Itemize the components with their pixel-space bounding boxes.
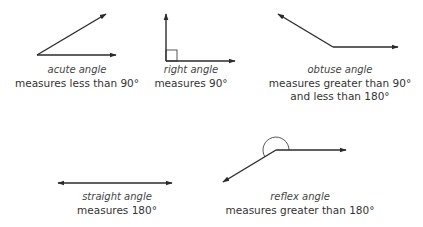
angle-description: measures greater than 90°	[269, 77, 411, 91]
angle-description: measures less than 90°	[15, 77, 139, 91]
straight-angle-label: straight angle measures 180°	[77, 190, 157, 217]
obtuse-angle-figure	[278, 14, 398, 47]
acute-angle-label: acute angle measures less than 90°	[15, 63, 139, 90]
right-angle-marker	[166, 50, 177, 61]
angle-name: right angle	[154, 63, 227, 77]
right-angle-label: right angle measures 90°	[154, 63, 227, 90]
obtuse-angle-label: obtuse angle measures greater than 90° a…	[269, 63, 411, 104]
angle-name: straight angle	[77, 190, 157, 204]
angle-name: acute angle	[15, 63, 139, 77]
reflex-angle-figure	[223, 137, 346, 182]
angle-name: obtuse angle	[269, 63, 411, 77]
angle-description: and less than 180°	[269, 90, 411, 104]
angle-name: reflex angle	[226, 190, 375, 204]
reflex-arc	[263, 137, 289, 157]
angle-description: measures greater than 180°	[226, 204, 375, 218]
angle-description: measures 90°	[154, 77, 227, 91]
acute-angle-figure	[37, 14, 116, 55]
reflex-angle-label: reflex angle measures greater than 180°	[226, 190, 375, 217]
right-angle-figure	[166, 14, 235, 61]
angle-description: measures 180°	[77, 204, 157, 218]
